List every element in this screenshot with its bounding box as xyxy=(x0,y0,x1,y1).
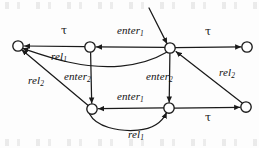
edge-s2-to-s3-tau xyxy=(175,47,241,48)
label-rel1-upper-text: rel xyxy=(51,50,63,62)
label-rel2-right-text: rel xyxy=(219,66,231,78)
edge-s5-to-s4-enter1 xyxy=(98,108,163,109)
label-rel1-lower-sub: 1 xyxy=(140,133,144,142)
figure-canvas: τ enter1 τ rel1 rel2 enter2 enter2 rel2 … xyxy=(0,0,259,148)
label-enter2-left: enter2 xyxy=(64,71,91,83)
label-enter1-bottom-sub: 1 xyxy=(140,95,144,104)
state-top-mid-left[interactable] xyxy=(85,42,95,52)
state-bottom-center[interactable] xyxy=(164,103,174,113)
state-bottom-left[interactable] xyxy=(87,104,97,114)
label-enter2-center-sub: 2 xyxy=(169,75,173,84)
state-top-right[interactable] xyxy=(242,42,252,52)
label-enter1-top-text: enter xyxy=(117,24,140,36)
edge-s1-to-s0-tau xyxy=(25,46,85,47)
label-rel2-right-sub: 2 xyxy=(231,71,235,80)
label-rel2-left-sub: 2 xyxy=(40,79,44,88)
label-rel1-lower-text: rel xyxy=(128,128,140,140)
label-tau-top-left: τ xyxy=(61,25,67,36)
edge-s5-to-s6-tau xyxy=(174,107,240,108)
label-enter2-center: enter2 xyxy=(146,71,173,83)
state-bottom-right[interactable] xyxy=(241,102,251,112)
label-enter1-bottom-text: enter xyxy=(117,90,140,102)
edge-initial-incoming xyxy=(149,8,167,44)
label-enter2-left-text: enter xyxy=(64,70,87,82)
label-rel1-upper: rel1 xyxy=(51,51,67,63)
label-enter1-top-sub: 1 xyxy=(140,29,144,38)
label-rel1-upper-sub: 1 xyxy=(63,55,67,64)
label-tau-bottom: τ xyxy=(205,112,211,123)
label-rel1-lower: rel1 xyxy=(128,129,144,141)
edge-s2-to-s0-rel1 xyxy=(23,48,167,66)
state-left[interactable] xyxy=(13,41,23,51)
label-enter1-bottom: enter1 xyxy=(117,91,144,103)
label-rel2-left: rel2 xyxy=(28,75,44,87)
label-enter2-center-text: enter xyxy=(146,70,169,82)
label-enter2-left-sub: 2 xyxy=(87,75,91,84)
label-enter1-top: enter1 xyxy=(117,25,144,37)
label-rel2-right: rel2 xyxy=(219,67,235,79)
label-tau-top-right: τ xyxy=(205,26,211,37)
label-rel2-left-text: rel xyxy=(28,74,40,86)
state-top-center[interactable] xyxy=(165,43,175,53)
edge-s2-to-s1-enter1 xyxy=(96,47,164,48)
